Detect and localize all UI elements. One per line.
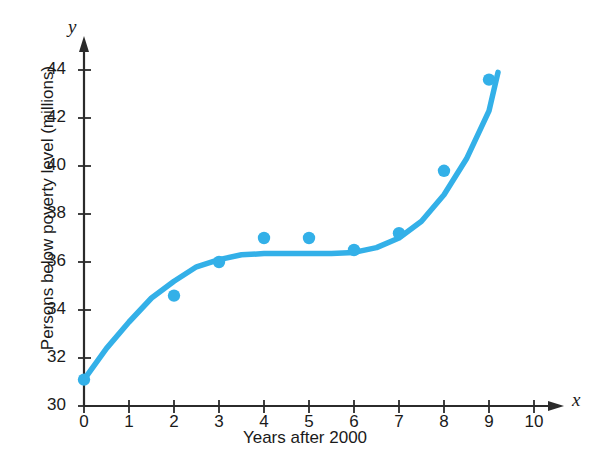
data-point [303,232,315,244]
data-point [213,256,225,268]
fitted-curve [84,72,498,379]
data-point [393,227,405,239]
data-point [438,165,450,177]
y-axis [79,36,89,406]
data-point [483,73,495,85]
x-axis [84,401,564,411]
x-tick-label-1: 1 [109,412,149,432]
data-point-markers [78,73,495,385]
poverty-level-scatter-chart: 44 42 40 38 36 34 32 30 0 1 2 3 4 5 6 7 … [0,0,601,465]
y-axis-title: Persons below poverty level (millions) [38,48,58,368]
data-point [78,373,90,385]
data-point [258,232,270,244]
chart-plot-area [0,0,601,465]
data-point [348,244,360,256]
y-axis-variable-label: y [68,16,76,38]
x-axis-variable-label: x [572,389,580,411]
data-point [168,289,180,301]
y-tick-label-30: 30 [18,395,66,415]
x-tick-label-0: 0 [64,412,104,432]
x-tick-label-10: 10 [514,412,554,432]
x-axis-title: Years after 2000 [175,428,435,448]
x-tick-label-9: 9 [469,412,509,432]
